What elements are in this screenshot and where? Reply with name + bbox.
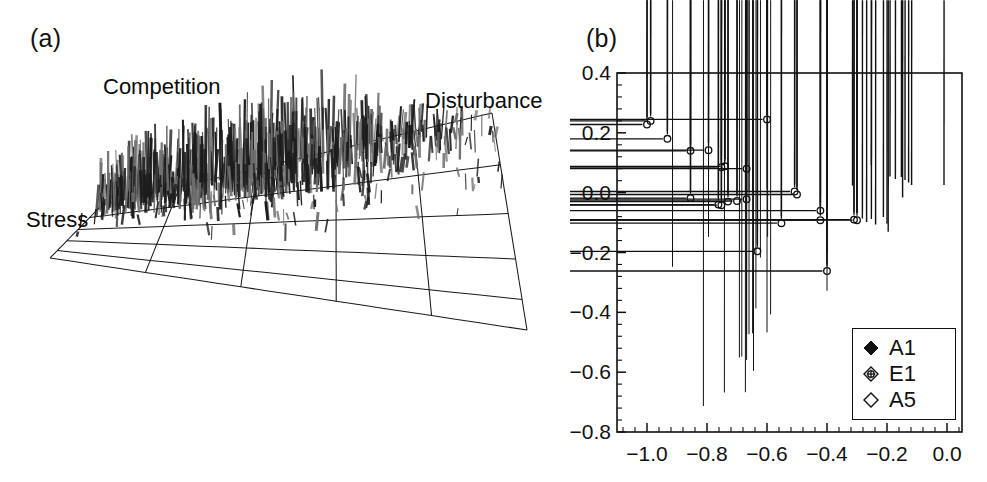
axis-label-disturbance: Disturbance [425,88,542,114]
panel-b-tag: (b) [586,24,617,53]
panel-a: (a) Competition Disturbance Stress [0,0,570,482]
legend-label: A5 [889,389,916,411]
x-tick-label: −0.6 [746,442,787,466]
filled-diamond-icon [860,337,882,359]
axis-label-stress: Stress [26,207,88,233]
x-tick-label: −0.4 [806,442,847,466]
legend-label: A1 [889,337,916,359]
legend-item-a1[interactable]: A1 [853,335,955,361]
legend-item-e1[interactable]: E1 [853,361,955,387]
open-diamond-icon [860,389,882,411]
series-A5 [853,0,945,232]
x-tick-label: 0.0 [932,442,961,466]
figure-container: (a) Competition Disturbance Stress (b) −… [0,0,987,482]
legend-label: E1 [889,363,916,385]
y-tick-label: 0.0 [582,181,611,205]
y-tick-label: −0.8 [570,420,611,444]
data-point [864,393,878,407]
y-tick-label: −0.4 [570,300,611,324]
x-tick-label: −0.8 [686,442,727,466]
axis-label-competition: Competition [103,74,220,100]
y-tick-label: −0.2 [570,241,611,265]
x-tick-label: −1.0 [626,442,667,466]
surface-plot-3d [0,0,570,482]
data-point [864,367,878,381]
crossed-diamond-icon [860,363,882,385]
x-tick-label: −0.2 [866,442,907,466]
panel-b: (b) −1.0−0.8−0.6−0.4−0.20.0 0.40.20.0−0.… [570,0,987,482]
y-tick-label: 0.4 [582,61,611,85]
series-A1 [673,0,828,406]
panel-a-tag: (a) [30,24,61,53]
legend-item-a5[interactable]: A5 [853,387,955,413]
y-tick-label: 0.2 [582,121,611,145]
legend: A1E1A5 [852,328,956,420]
data-point [864,341,878,355]
y-tick-label: −0.6 [570,360,611,384]
